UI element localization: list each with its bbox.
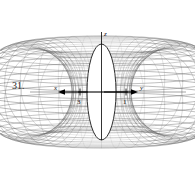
mesh-line bbox=[5, 50, 79, 144]
y-tick-label: 1 bbox=[123, 98, 127, 106]
wireframe-surface-plot: x y z 3 1 bbox=[0, 0, 195, 181]
figure-container: 31. bbox=[0, 0, 195, 181]
x-axis-label: x bbox=[53, 84, 58, 92]
z-axis-label: z bbox=[103, 30, 107, 38]
mesh-line bbox=[5, 39, 79, 133]
x-tick-label: 3 bbox=[77, 98, 81, 106]
x-axis-arrow bbox=[58, 89, 88, 95]
